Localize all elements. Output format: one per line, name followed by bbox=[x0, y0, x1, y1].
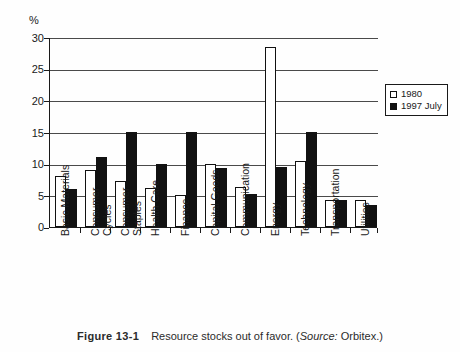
caption-source-label: Source: bbox=[300, 330, 338, 342]
x-label-basic-materials: Basic Materials bbox=[60, 146, 72, 236]
y-tick-label-15: 15 bbox=[18, 128, 44, 139]
legend-item-1997-july: 1997 July bbox=[390, 100, 442, 112]
x-label-consumer-staples: Consumer Staples bbox=[120, 146, 143, 236]
x-label-capital-goods: Capital Goods bbox=[210, 146, 222, 236]
chart-legend: 1980 1997 July bbox=[385, 84, 448, 116]
y-tick-label-0: 0 bbox=[18, 222, 44, 233]
y-tick-label-20: 20 bbox=[18, 96, 44, 107]
x-tick-energy bbox=[290, 228, 291, 233]
y-tick-label-10: 10 bbox=[18, 159, 44, 170]
filled-square-marker-icon bbox=[390, 103, 397, 110]
x-tick-technology bbox=[320, 228, 321, 233]
x-label-utilities: Utilities bbox=[360, 146, 372, 236]
y-tick-label-25: 25 bbox=[18, 64, 44, 75]
caption-text: Resource stocks out of favor. ( bbox=[151, 330, 300, 342]
x-label-transportation: Transportation bbox=[330, 146, 342, 236]
y-tick-label-30: 30 bbox=[18, 33, 44, 44]
y-tick-label-5: 5 bbox=[18, 191, 44, 202]
legend-label-1980: 1980 bbox=[401, 88, 422, 100]
y-axis-unit-label: % bbox=[29, 14, 39, 26]
x-label-consumer-cycles: Consumer Cycles bbox=[90, 146, 113, 236]
x-tick-communication bbox=[260, 228, 261, 233]
x-label-health-care: Health Care bbox=[150, 146, 162, 236]
x-tick-utilities bbox=[377, 228, 378, 233]
x-tick-health-care bbox=[170, 228, 171, 233]
legend-label-1997-july: 1997 July bbox=[401, 100, 442, 112]
caption-source-value: Orbitex.) bbox=[338, 330, 383, 342]
figure-caption: Figure 13-1 Resource stocks out of favor… bbox=[0, 330, 460, 342]
x-label-communication: Communication bbox=[240, 146, 252, 236]
figure-number: Figure 13-1 bbox=[77, 330, 139, 342]
x-tick-basic-materials bbox=[80, 228, 81, 233]
legend-item-1980: 1980 bbox=[390, 88, 442, 100]
x-label-finance: Finance bbox=[180, 146, 192, 236]
x-label-technology: Technology bbox=[300, 146, 312, 236]
y-tick-mark-0 bbox=[44, 228, 49, 229]
x-label-energy: Energy bbox=[270, 146, 282, 236]
open-square-marker-icon bbox=[390, 91, 397, 98]
x-tick-transportation bbox=[350, 228, 351, 233]
x-tick-finance bbox=[200, 228, 201, 233]
x-tick-capital-goods bbox=[230, 228, 231, 233]
figure-13-1: % 30 25 20 15 10 5 0 bbox=[0, 0, 460, 352]
